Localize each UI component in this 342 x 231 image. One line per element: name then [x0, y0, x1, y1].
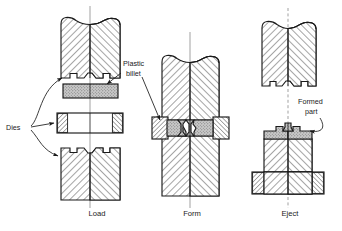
plastic-billet-label-line1: Plastic: [123, 59, 145, 68]
dies-label: Dies: [6, 123, 21, 132]
forging-process-diagram: Load Form: [0, 0, 342, 231]
formed-part-label-line1: Formed: [298, 97, 323, 106]
plastic-billet-label-line2: billet: [126, 69, 141, 78]
load-plastic-billet: [63, 84, 118, 98]
formed-part-label-line2: part: [305, 107, 317, 116]
eject-upper-punch: [262, 21, 316, 86]
form-lower-punch: [162, 136, 219, 196]
load-die-ring: [57, 113, 123, 133]
caption-load: Load: [89, 209, 106, 218]
form-workpiece: [167, 120, 213, 136]
form-upper-punch: [162, 55, 219, 120]
load-upper-punch: [61, 17, 120, 78]
caption-eject: Eject: [282, 209, 300, 218]
caption-form: Form: [183, 209, 201, 218]
load-lower-punch: [61, 148, 120, 200]
eject-lower-punch: [264, 139, 312, 172]
